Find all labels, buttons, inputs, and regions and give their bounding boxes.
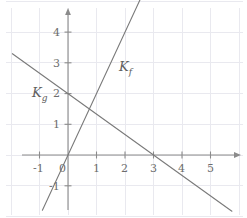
curve-label-kf: Kf — [119, 60, 132, 77]
y-tick-label-2: 2 — [53, 88, 60, 99]
plot-canvas — [0, 0, 247, 218]
x-tick-label-3: 3 — [150, 163, 157, 174]
x-tick-label-4: 4 — [178, 163, 185, 174]
y-tick-label-1: 1 — [53, 119, 60, 130]
curve-label-kf-main: K — [119, 59, 129, 74]
y-tick-label-3: 3 — [53, 58, 60, 69]
y-tick-label-4: 4 — [53, 27, 60, 38]
x-tick-label-neg1: -1 — [33, 163, 44, 174]
x-tick-label-0: 0 — [59, 163, 66, 174]
curve-kg — [12, 54, 232, 212]
x-tick-label-2: 2 — [121, 163, 128, 174]
curve-label-kg-sub: g — [42, 93, 48, 103]
curve-label-kf-sub: f — [129, 67, 132, 77]
curve-label-kg-main: K — [32, 85, 42, 100]
y-axis-arrowhead — [65, 8, 71, 15]
graph-figure: -1 0 1 2 3 4 5 4 3 2 1 -1 Kf Kg — [0, 0, 247, 218]
curve-label-kg: Kg — [32, 86, 47, 103]
x-tick-label-5: 5 — [207, 163, 214, 174]
x-tick-label-1: 1 — [93, 163, 100, 174]
x-axis-arrowhead — [234, 152, 241, 158]
y-tick-label-neg1: -1 — [49, 181, 60, 192]
